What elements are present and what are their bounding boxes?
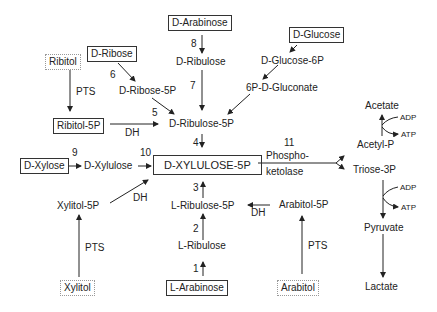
node-d-ribose-5p: D-Ribose-5P: [119, 85, 176, 97]
edge-label-dh-arabitol: DH: [251, 207, 265, 219]
step-number-7: 7: [190, 80, 196, 92]
step-number-10: 10: [140, 147, 151, 159]
node-d-ribulose-5p: D-Ribulose-5P: [169, 118, 234, 130]
node-d-glucose: D-Glucose: [289, 27, 344, 43]
edge-label-pts-ribitol: PTS: [76, 86, 95, 98]
step-number-5: 5: [152, 107, 158, 119]
edge-label-adp-1: ADP: [400, 113, 416, 122]
node-l-ribulose-5p: L-Ribulose-5P: [171, 200, 234, 212]
node-d-xylulose: D-Xylulose: [84, 160, 132, 172]
node-d-ribulose: D-Ribulose: [176, 56, 225, 68]
edge-label-pts-arabitol: PTS: [308, 240, 327, 252]
node-arabitol-5p: Arabitol-5P: [279, 199, 328, 211]
node-l-arabinose: L-Arabinose: [166, 280, 228, 296]
node-xylitol-5p: Xylitol-5P: [57, 200, 99, 212]
edge-label-dh-xylitol: DH: [133, 192, 147, 204]
step-number-11: 11: [284, 137, 294, 149]
node-acetate: Acetate: [365, 100, 399, 112]
node-pyruvate: Pyruvate: [364, 222, 403, 234]
step-number-2: 2: [193, 223, 199, 235]
node-d-xylose: D-Xylose: [20, 158, 69, 174]
edge-label-pts-xylitol: PTS: [85, 242, 104, 254]
edge-label-atp-1: ATP: [401, 130, 416, 139]
node-xylitol: Xylitol: [60, 280, 95, 296]
node-triose-3p: Triose-3P: [353, 164, 396, 176]
node-6p-d-gluconate: 6P-D-Gluconate: [246, 82, 318, 94]
edge-label-atp-2: ATP: [401, 203, 416, 212]
edge-label-phosphoketolase-1: Phospho-: [266, 150, 309, 162]
step-number-1: 1: [193, 263, 199, 275]
step-number-6: 6: [110, 69, 116, 81]
edge-label-dh-ribitol: DH: [125, 127, 139, 139]
step-number-8: 8: [191, 38, 197, 50]
edge-label-adp-2: ADP: [400, 183, 416, 192]
node-d-xylulose-5p: D-XYLULOSE-5P: [153, 155, 262, 175]
node-d-arabinose: D-Arabinose: [168, 15, 232, 31]
edge-label-phosphoketolase-2: ketolase: [266, 166, 303, 178]
step-number-4: 4: [193, 137, 199, 149]
node-d-glucose-6p: D-Glucose-6P: [261, 55, 324, 67]
step-number-3: 3: [193, 182, 199, 194]
node-arabitol: Arabitol: [277, 280, 319, 296]
node-ribitol: Ribitol: [45, 54, 81, 70]
step-number-9: 9: [72, 147, 78, 159]
node-acetyl-p: Acetyl-P: [357, 139, 394, 151]
node-ribitol-5p: Ribitol-5P: [53, 118, 104, 134]
node-l-ribulose: L-Ribulose: [178, 240, 226, 252]
node-lactate: Lactate: [365, 281, 398, 293]
node-d-ribose: D-Ribose: [87, 46, 137, 62]
